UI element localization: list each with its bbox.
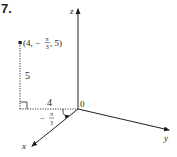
svg-text:(4, −: (4, − xyxy=(23,38,40,48)
svg-text:π: π xyxy=(50,111,54,117)
x-axis xyxy=(32,109,78,146)
right-angle-marker xyxy=(20,102,27,109)
angle-arc xyxy=(63,109,69,116)
svg-text:−: − xyxy=(40,114,45,123)
problem-number: 7. xyxy=(1,1,12,16)
svg-text:π: π xyxy=(46,36,50,42)
angle-label: − π 3 xyxy=(40,111,54,126)
x-axis-label: x xyxy=(21,141,26,151)
cylindrical-coordinates-diagram: 7. z y x 0 (4, − π 3 , 5) 5 4 − π 3 xyxy=(0,0,177,157)
y-axis-label: y xyxy=(163,133,168,143)
origin-label: 0 xyxy=(80,99,85,109)
svg-text:, 5): , 5) xyxy=(50,38,62,48)
point-label: (4, − π 3 , 5) xyxy=(23,36,62,50)
radius-label: 4 xyxy=(47,97,52,108)
height-label: 5 xyxy=(25,70,30,81)
point-marker xyxy=(19,41,22,44)
svg-text:3: 3 xyxy=(46,44,49,50)
svg-text:3: 3 xyxy=(50,120,53,126)
z-axis-label: z xyxy=(69,6,74,16)
y-axis xyxy=(78,109,169,130)
